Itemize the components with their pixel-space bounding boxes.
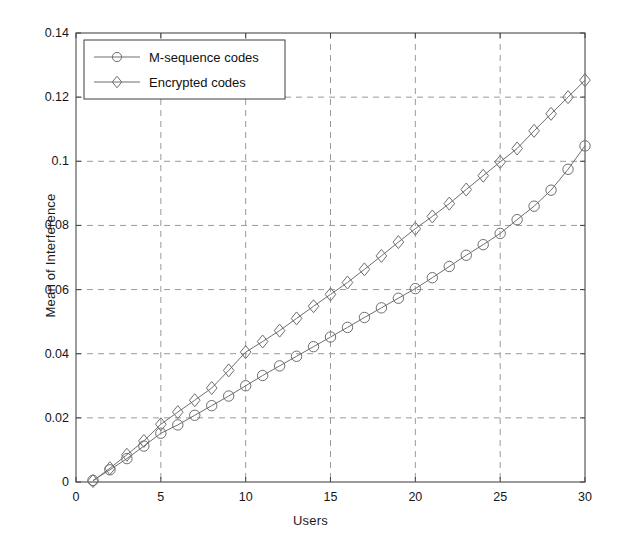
x-tick-label: 15 — [324, 490, 338, 504]
x-axis-label: Users — [0, 513, 621, 528]
y-tick-label: 0.02 — [8, 411, 69, 425]
y-tick-label: 0.12 — [8, 90, 69, 104]
series-circle — [88, 141, 590, 486]
interference-line-chart: M-sequence codesEncrypted codes — [0, 0, 621, 552]
y-tick-label: 0.14 — [8, 26, 69, 40]
x-tick-label: 25 — [493, 490, 507, 504]
x-tick-label: 5 — [157, 490, 164, 504]
x-tick-label: 30 — [578, 490, 592, 504]
y-tick-label: 0.08 — [8, 218, 69, 232]
legend-label: Encrypted codes — [149, 75, 246, 90]
series-line — [93, 146, 585, 481]
series-line — [93, 80, 585, 481]
x-tick-label: 0 — [73, 490, 80, 504]
y-tick-label: 0.06 — [8, 283, 69, 297]
y-axis-label: Mean of Interference — [43, 146, 58, 366]
chart-legend: M-sequence codesEncrypted codes — [84, 40, 285, 99]
data-series-layer — [88, 74, 591, 488]
series-diamond — [88, 74, 591, 488]
x-tick-label: 20 — [408, 490, 422, 504]
chart-figure: M-sequence codesEncrypted codes 00.020.0… — [0, 0, 621, 552]
y-tick-label: 0.04 — [8, 347, 69, 361]
grid-lines — [76, 33, 585, 482]
legend-label: M-sequence codes — [149, 50, 259, 65]
y-tick-label: 0.1 — [8, 154, 69, 168]
x-tick-label: 10 — [239, 490, 253, 504]
y-tick-label: 0 — [8, 475, 69, 489]
